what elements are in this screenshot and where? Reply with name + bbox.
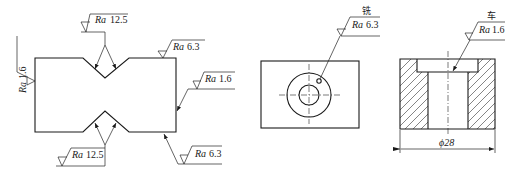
ra-value: 1.6 <box>492 24 505 35</box>
ra-value: 12.5 <box>86 149 104 160</box>
notched-block-outline <box>35 58 176 132</box>
roughness-symbol-milling: 铣 Ra 6.3 <box>320 5 380 79</box>
figure-3-bushing-section: 车 Ra 1.6 ϕ28 <box>390 10 505 153</box>
indicator-circle <box>317 79 321 83</box>
figure-2-plate-with-holes: 铣 Ra 6.3 <box>261 5 380 128</box>
ra-value: 12.5 <box>110 14 128 25</box>
plate-outline <box>261 61 359 128</box>
ra-value: 1.6 <box>219 73 232 84</box>
ra-label: Ra <box>172 41 184 52</box>
roughness-symbol-left: Ra 1.6 <box>17 36 35 94</box>
section-hatching-left <box>390 38 440 147</box>
dimension-label: ϕ28 <box>439 137 454 148</box>
roughness-symbol-bottom-right: Ra 6.3 <box>164 134 222 164</box>
ra-label: Ra <box>17 82 28 94</box>
ra-label: Ra <box>351 19 363 30</box>
technical-drawing: Ra 12.5 Ra 6.3 Ra 1.6 Ra 1.6 <box>0 0 513 176</box>
process-label-turning: 车 <box>487 10 496 21</box>
ra-value: 6.3 <box>187 41 200 52</box>
figure-1-notched-block: Ra 12.5 Ra 6.3 Ra 1.6 Ra 1.6 <box>17 14 235 166</box>
process-label-milling: 铣 <box>362 5 371 16</box>
ra-label: Ra <box>71 149 83 160</box>
roughness-symbol-turning: 车 Ra 1.6 <box>453 10 505 71</box>
ra-label: Ra <box>94 14 106 25</box>
ra-label: Ra <box>194 148 206 159</box>
ra-label: Ra <box>204 73 216 84</box>
roughness-symbol-top-notch: Ra 12.5 <box>81 14 128 69</box>
roughness-symbol-right: Ra 1.6 <box>177 72 235 111</box>
diameter-dimension: ϕ28 <box>400 130 495 153</box>
section-hatching-right <box>460 34 505 141</box>
ra-value: 6.3 <box>209 148 222 159</box>
ra-value: 1.6 <box>17 67 28 80</box>
ra-value: 6.3 <box>366 19 379 30</box>
ra-label: Ra <box>478 24 490 35</box>
roughness-symbol-top-right: Ra 6.3 <box>158 40 205 58</box>
